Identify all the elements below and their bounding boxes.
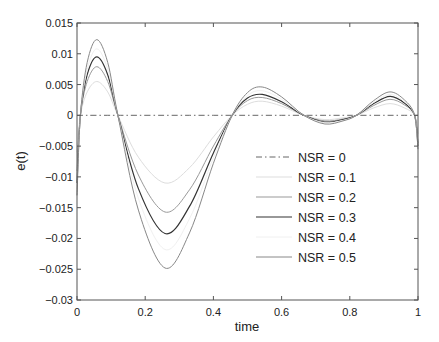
y-tick-label: −0.015 bbox=[39, 202, 73, 214]
y-tick-label: 0 bbox=[67, 109, 73, 121]
y-tick-label: −0.025 bbox=[39, 263, 73, 275]
y-tick-label: −0.03 bbox=[45, 294, 73, 306]
y-tick-label: 0.015 bbox=[45, 17, 73, 29]
x-tick-label: 0.2 bbox=[138, 306, 153, 318]
legend-label: NSR = 0.2 bbox=[298, 191, 356, 205]
line-chart: 00.20.40.60.810.0150.010.0050−0.005−0.01… bbox=[0, 0, 439, 342]
x-tick-label: 1 bbox=[415, 306, 421, 318]
legend-label: NSR = 0.4 bbox=[298, 231, 356, 245]
x-tick-label: 0.8 bbox=[342, 306, 357, 318]
x-axis-label: time bbox=[235, 319, 260, 334]
legend-label: NSR = 0.1 bbox=[298, 171, 356, 185]
x-tick-label: 0 bbox=[74, 306, 80, 318]
y-tick-label: −0.005 bbox=[39, 140, 73, 152]
legend-label: NSR = 0 bbox=[298, 151, 346, 165]
x-tick-label: 0.4 bbox=[206, 306, 221, 318]
legend-label: NSR = 0.5 bbox=[298, 251, 356, 265]
y-tick-label: −0.02 bbox=[45, 232, 73, 244]
x-tick-label: 0.6 bbox=[274, 306, 289, 318]
legend-label: NSR = 0.3 bbox=[298, 211, 356, 225]
y-tick-label: 0.01 bbox=[52, 48, 73, 60]
y-tick-label: 0.005 bbox=[45, 79, 73, 91]
y-tick-label: −0.01 bbox=[45, 171, 73, 183]
y-axis-label: e(t) bbox=[13, 151, 28, 171]
